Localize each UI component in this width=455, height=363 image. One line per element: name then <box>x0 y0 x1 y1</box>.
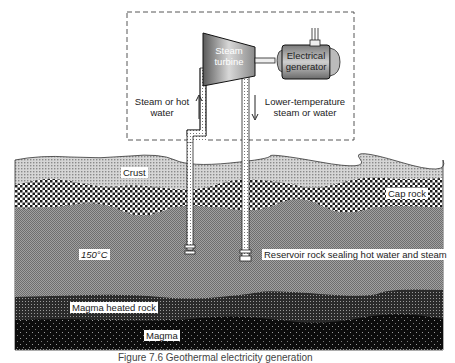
turbine-label: Steam turbine <box>209 45 249 67</box>
magma-label: Magma <box>144 330 180 341</box>
cap-rock-label: Cap rock <box>386 188 428 199</box>
up-flow-label: Steam or hot water <box>130 96 194 118</box>
down-arrow-icon <box>252 95 258 120</box>
generator-label: Electrical generator <box>284 50 328 72</box>
crust-label: Crust <box>121 167 148 178</box>
figure-caption: Figure 7.6 Geothermal electricity genera… <box>118 352 313 363</box>
layer-magma <box>15 314 443 349</box>
injection-pipe <box>242 75 249 260</box>
reservoir-rock-label: Reservoir rock sealing hot water and ste… <box>262 249 449 260</box>
down-flow-label: Lower-temperature steam or water <box>259 96 351 118</box>
magma-heated-rock-label: Magma heated rock <box>70 302 158 313</box>
turbine-shaft <box>255 58 275 63</box>
production-pipe <box>187 142 193 250</box>
temperature-label: 150°C <box>79 249 110 260</box>
